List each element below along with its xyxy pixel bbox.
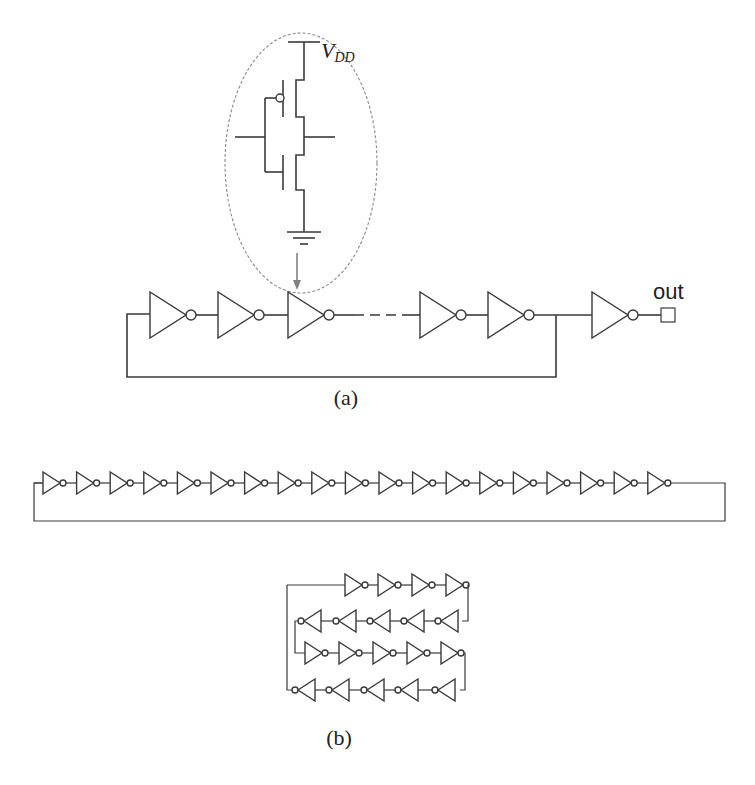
inverter-15 xyxy=(432,679,455,701)
inverter-9 xyxy=(298,610,321,632)
cmos-inverter-inset: VDD xyxy=(225,33,377,293)
inverter-18 xyxy=(614,472,637,494)
output-buffer-inverter xyxy=(592,292,638,338)
serpentine-ring-layout xyxy=(287,574,469,701)
inverter-2 xyxy=(378,574,401,596)
inverter-n xyxy=(488,292,534,338)
inverter-17 xyxy=(581,472,604,494)
inverter-19 xyxy=(292,679,315,701)
inverter-11 xyxy=(379,472,402,494)
inverter-6 xyxy=(211,472,234,494)
inverter-5 xyxy=(435,610,458,632)
vdd-label: VDD xyxy=(321,38,355,65)
inverter-8 xyxy=(278,472,301,494)
nmos-drain xyxy=(296,135,304,232)
caption-a: (a) xyxy=(334,385,358,410)
inverter-3 xyxy=(288,292,334,338)
pmos-gate-bubble xyxy=(276,94,284,102)
inverter-11 xyxy=(339,642,362,664)
inverter-12 xyxy=(413,472,436,494)
inset-pointer-arrow xyxy=(293,253,301,290)
linear-ring-layout xyxy=(34,472,725,521)
inverter-15 xyxy=(513,472,536,494)
inverter-7 xyxy=(367,610,390,632)
inverter-5 xyxy=(177,472,200,494)
inset-dashed-ellipse xyxy=(225,33,377,293)
inverter-10 xyxy=(305,642,328,664)
ring-inverter-chain: out xyxy=(127,279,684,377)
output-label: out xyxy=(653,279,684,304)
ground-icon xyxy=(287,232,321,244)
inverter-2 xyxy=(77,472,100,494)
pmos-source xyxy=(296,42,304,135)
inverter-8 xyxy=(333,610,356,632)
inverter-19 xyxy=(648,472,671,494)
inverter-13 xyxy=(446,472,469,494)
panel-a: VDD xyxy=(127,33,684,410)
panel-b: (b) xyxy=(34,472,725,750)
inverter-n-minus-1 xyxy=(420,292,466,338)
inverter-3 xyxy=(412,574,435,596)
inverter-18 xyxy=(326,679,349,701)
inverter-4 xyxy=(446,574,469,596)
inverter-6 xyxy=(401,610,424,632)
inverter-14 xyxy=(441,642,464,664)
inverter-17 xyxy=(361,679,384,701)
inverter-7 xyxy=(245,472,268,494)
ring-oscillator-figure: VDD xyxy=(0,0,755,785)
inverter-2 xyxy=(218,292,264,338)
inverter-12 xyxy=(373,642,396,664)
serpentine-feedback-wire xyxy=(287,585,292,690)
inverter-13 xyxy=(407,642,430,664)
inverter-1 xyxy=(150,292,196,338)
output-pad xyxy=(661,308,675,322)
inverter-16 xyxy=(395,679,418,701)
caption-b: (b) xyxy=(326,725,352,750)
inverter-10 xyxy=(345,472,368,494)
inverter-1 xyxy=(345,574,368,596)
inverter-1 xyxy=(43,472,66,494)
inverter-14 xyxy=(480,472,503,494)
inverter-9 xyxy=(312,472,335,494)
inverter-16 xyxy=(547,472,570,494)
inverter-3 xyxy=(110,472,133,494)
inverter-4 xyxy=(144,472,167,494)
